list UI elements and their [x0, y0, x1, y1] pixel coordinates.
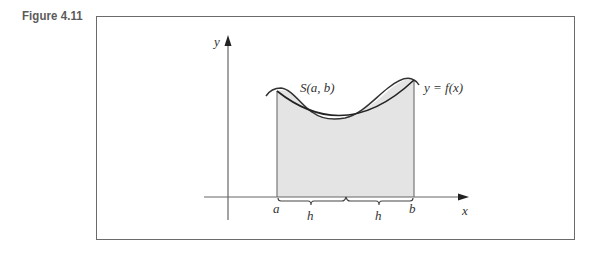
parabola-label: S(a, b) [300, 80, 335, 95]
brace-first-h [278, 197, 346, 205]
point-b-label: b [409, 201, 416, 216]
y-axis-arrow-icon [225, 35, 232, 46]
interval-h-label-2: h [375, 208, 382, 223]
brace-second-h [346, 197, 413, 205]
point-a-label: a [273, 201, 280, 216]
x-axis-arrow-icon [458, 194, 469, 201]
interval-h-label-1: h [307, 208, 314, 223]
simpson-rule-diagram: y x a b h h S(a, b) y = f(x) [0, 0, 606, 253]
x-axis-label: x [461, 203, 468, 218]
y-axis [225, 35, 232, 220]
function-label: y = f(x) [422, 80, 463, 95]
y-axis-label: y [212, 34, 220, 49]
